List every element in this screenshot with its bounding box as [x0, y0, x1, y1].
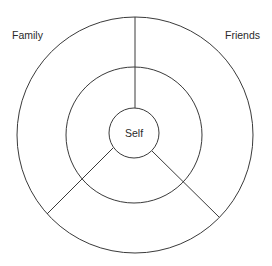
label-friends: Friends	[225, 29, 260, 41]
label-family: Family	[12, 29, 44, 41]
diagram-canvas: Family Friends Self	[0, 0, 272, 266]
divider-lower-right	[152, 151, 219, 217]
label-self: Self	[125, 127, 143, 139]
concentric-diagram: Family Friends Self	[0, 0, 272, 266]
divider-lower-left	[47, 148, 113, 214]
